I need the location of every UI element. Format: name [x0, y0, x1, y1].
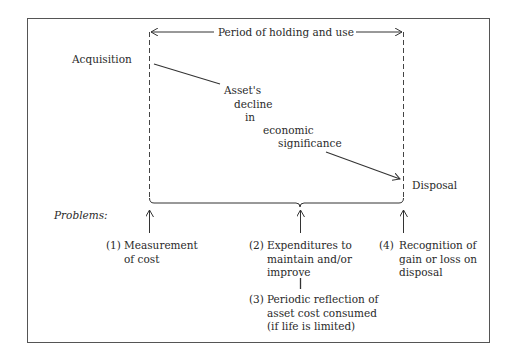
- problem-1-line-2: of cost: [124, 253, 198, 267]
- problem-4-line-3: disposal: [399, 266, 477, 280]
- problem-2-number: (2): [249, 239, 264, 253]
- decline-label-line-4: economic: [263, 124, 314, 137]
- problem-1-line-1: Measurement: [124, 239, 198, 253]
- decline-label-line-1: Asset's: [224, 84, 261, 97]
- problem-3-number: (3): [249, 293, 264, 307]
- problem-3-text: Periodic reflection of asset cost consum…: [267, 293, 378, 334]
- decline-line-start: [154, 64, 220, 84]
- decline-label-line-3: in: [245, 111, 255, 124]
- problems-label: Problems:: [54, 209, 108, 222]
- period-label: Period of holding and use: [216, 26, 356, 39]
- decline-label-line-2: decline: [234, 98, 273, 111]
- problem-4-line-2: gain or loss on: [399, 253, 477, 267]
- disposal-label: Disposal: [412, 179, 457, 192]
- problem-2-line-3: improve: [267, 266, 352, 280]
- problem-4-number: (4): [379, 239, 394, 253]
- period-brace: [150, 198, 404, 207]
- problem-1-text: Measurement of cost: [124, 239, 198, 266]
- decline-arrow: [326, 152, 400, 179]
- problem-3-line-3: (if life is limited): [267, 320, 378, 334]
- problem-2-text: Expenditures to maintain and/or improve: [267, 239, 352, 280]
- decline-label-line-5: significance: [278, 137, 342, 150]
- problem-4-line-1: Recognition of: [399, 239, 477, 253]
- problem-3-line-1: Periodic reflection of: [267, 293, 378, 307]
- problem-2-line-1: Expenditures to: [267, 239, 352, 253]
- problem-3-line-2: asset cost consumed: [267, 307, 378, 321]
- acquisition-label: Acquisition: [72, 53, 132, 66]
- problem-2-line-2: maintain and/or: [267, 253, 352, 267]
- problem-1-number: (1): [106, 239, 121, 253]
- problem-4-text: Recognition of gain or loss on disposal: [399, 239, 477, 280]
